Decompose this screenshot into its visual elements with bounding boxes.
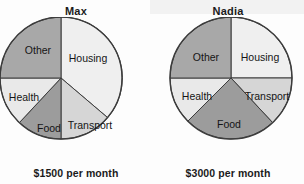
slice-housing[interactable] (231, 17, 292, 78)
slice-label-transport: Transport (245, 90, 290, 102)
slice-label-housing: Housing (241, 51, 280, 63)
slice-label-other: Other (25, 44, 52, 56)
pie-svg-nadia: Housing Transport Food Health Other (152, 17, 304, 157)
slice-label-food: Food (37, 122, 61, 134)
slice-label-other: Other (193, 51, 220, 63)
figure-canvas: Max Housing Transport Food Health Other … (0, 0, 304, 184)
slice-label-food: Food (217, 118, 241, 130)
chart-title-nadia: Nadia (152, 5, 304, 17)
chart-caption-max: $1500 per month (0, 167, 152, 179)
slice-label-health: Health (182, 90, 213, 102)
pie-chart-nadia: Nadia Housing Transport Food Health Othe… (152, 0, 304, 184)
chart-caption-nadia: $3000 per month (152, 167, 304, 179)
slice-label-housing: Housing (69, 52, 108, 64)
slice-other[interactable] (170, 17, 231, 78)
pie-svg-max: Housing Transport Food Health Other (0, 17, 152, 157)
slice-label-health: Health (9, 91, 40, 103)
chart-title-max: Max (0, 5, 152, 17)
slice-label-transport: Transport (68, 119, 113, 131)
pie-chart-max: Max Housing Transport Food Health Other … (0, 0, 152, 184)
